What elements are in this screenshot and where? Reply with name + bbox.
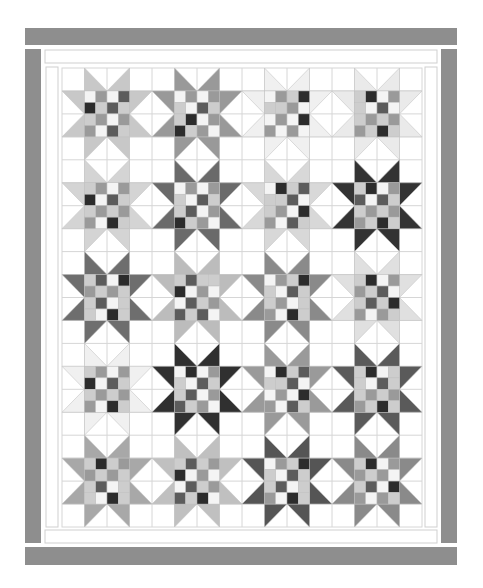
checker-square <box>107 91 118 102</box>
checker-square <box>85 481 96 492</box>
checker-square <box>96 309 107 320</box>
checker-square <box>96 102 107 113</box>
checker-square <box>298 183 309 194</box>
checker-square <box>298 470 309 481</box>
checker-square <box>96 194 107 205</box>
checker-square <box>355 102 366 113</box>
inner-strip-right <box>425 67 437 527</box>
checker-square <box>287 206 298 217</box>
checker-square <box>377 275 388 286</box>
checker-square <box>377 470 388 481</box>
checker-square <box>208 286 219 297</box>
checker-square <box>186 298 197 309</box>
checker-square <box>276 470 287 481</box>
checker-square <box>96 286 107 297</box>
checker-square <box>96 493 107 504</box>
checker-square <box>107 366 118 377</box>
checker-square <box>377 458 388 469</box>
checker-square <box>107 389 118 400</box>
checker-square <box>355 298 366 309</box>
checker-square <box>265 366 276 377</box>
checker-square <box>96 217 107 228</box>
outer-border-left <box>25 49 41 543</box>
checker-square <box>355 470 366 481</box>
checker-square <box>96 275 107 286</box>
checker-square <box>298 389 309 400</box>
checker-square <box>377 389 388 400</box>
checker-square <box>355 206 366 217</box>
checker-square <box>186 125 197 136</box>
checker-square <box>355 183 366 194</box>
checker-square <box>107 102 118 113</box>
checker-square <box>197 366 208 377</box>
checker-square <box>287 102 298 113</box>
checker-square <box>287 458 298 469</box>
checker-square <box>208 298 219 309</box>
checker-square <box>208 378 219 389</box>
checker-square <box>298 91 309 102</box>
checker-square <box>276 481 287 492</box>
checker-square <box>197 493 208 504</box>
checker-square <box>197 183 208 194</box>
checker-square <box>366 275 377 286</box>
checker-square <box>265 114 276 125</box>
checker-square <box>388 125 399 136</box>
checker-square <box>118 206 129 217</box>
checker-square <box>355 366 366 377</box>
checker-square <box>118 366 129 377</box>
checker-square <box>377 183 388 194</box>
checker-square <box>107 125 118 136</box>
checker-square <box>276 217 287 228</box>
checker-square <box>366 286 377 297</box>
checker-square <box>298 217 309 228</box>
checker-square <box>388 493 399 504</box>
checker-square <box>377 194 388 205</box>
checker-square <box>366 183 377 194</box>
checker-square <box>85 91 96 102</box>
checker-square <box>175 183 186 194</box>
checker-square <box>208 366 219 377</box>
checker-square <box>265 481 276 492</box>
checker-square <box>118 389 129 400</box>
checker-square <box>85 286 96 297</box>
checker-square <box>85 378 96 389</box>
checker-square <box>197 194 208 205</box>
checker-square <box>377 481 388 492</box>
checker-square <box>298 114 309 125</box>
checker-square <box>287 366 298 377</box>
checker-square <box>118 458 129 469</box>
checker-square <box>96 298 107 309</box>
checker-square <box>197 458 208 469</box>
checker-square <box>118 194 129 205</box>
checker-square <box>298 125 309 136</box>
checker-square <box>298 401 309 412</box>
checker-square <box>265 125 276 136</box>
checker-square <box>208 458 219 469</box>
checker-square <box>287 91 298 102</box>
checker-square <box>197 401 208 412</box>
checker-square <box>287 298 298 309</box>
checker-square <box>85 458 96 469</box>
checker-square <box>85 298 96 309</box>
checker-square <box>197 206 208 217</box>
checker-square <box>355 114 366 125</box>
checker-square <box>377 366 388 377</box>
checker-square <box>366 298 377 309</box>
checker-square <box>85 275 96 286</box>
checker-square <box>175 286 186 297</box>
checker-square <box>197 309 208 320</box>
checker-square <box>96 481 107 492</box>
checker-square <box>85 401 96 412</box>
checker-square <box>175 470 186 481</box>
checker-square <box>355 401 366 412</box>
checker-square <box>175 194 186 205</box>
checker-square <box>96 183 107 194</box>
checker-square <box>388 183 399 194</box>
checker-square <box>298 493 309 504</box>
checker-square <box>107 275 118 286</box>
checker-square <box>208 194 219 205</box>
checker-square <box>175 458 186 469</box>
checker-square <box>276 309 287 320</box>
checker-square <box>85 125 96 136</box>
checker-square <box>366 217 377 228</box>
